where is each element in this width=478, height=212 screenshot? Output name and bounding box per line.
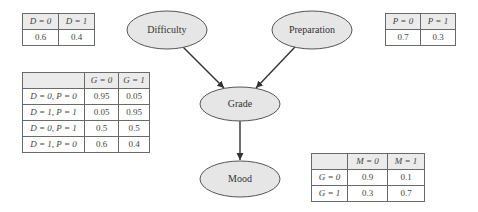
node-grade-label: Grade [228,98,253,109]
value-cell: 0.5 [119,121,150,137]
value-cell: 0.95 [85,89,119,105]
value-cell: 0.9 [348,170,388,186]
header-cell: G = 1 [119,73,150,89]
value-cell: 0.4 [59,30,95,46]
condition-cell: D = 0, P = 1 [23,121,85,137]
header-cell: M = 0 [348,154,388,170]
table-row: D = 0, P = 0 0.95 0.05 [23,89,150,105]
cpt-mood-table: M = 0 M = 1 G = 0 0.9 0.1 G = 1 0.3 0.7 [311,153,425,202]
value-cell: 0.7 [388,186,425,202]
value-cell: 0.95 [119,105,150,121]
condition-cell: D = 0, P = 0 [23,89,85,105]
header-cell: D = 1 [59,14,95,30]
value-cell: 0.4 [119,137,150,153]
condition-cell: G = 0 [312,170,348,186]
node-difficulty-label: Difficulty [147,24,186,35]
value-cell: 0.5 [85,121,119,137]
header-cell: M = 1 [388,154,425,170]
cpt-grade-table: G = 0 G = 1 D = 0, P = 0 0.95 0.05 D = 1… [22,72,150,153]
cpt-preparation-table: P = 0 P = 1 0.7 0.3 [385,13,456,46]
node-difficulty: Difficulty [127,11,207,49]
value-cell: 0.7 [386,30,421,46]
condition-cell: D = 1, P = 1 [23,105,85,121]
node-grade: Grade [200,87,280,121]
header-cell: D = 0 [23,14,59,30]
condition-cell: D = 1, P = 0 [23,137,85,153]
table-row: 0.6 0.4 [23,30,95,46]
header-cell: G = 0 [85,73,119,89]
value-cell: 0.1 [388,170,425,186]
table-row: D = 1, P = 0 0.6 0.4 [23,137,150,153]
table-row: G = 1 0.3 0.7 [312,186,425,202]
header-cell: P = 0 [386,14,421,30]
table-row: D = 1, P = 1 0.05 0.95 [23,105,150,121]
header-cell: P = 1 [421,14,456,30]
header-cell-empty [23,73,85,89]
edge-difficulty-grade [183,47,224,88]
node-preparation-label: Preparation [289,24,335,35]
node-preparation: Preparation [272,11,352,49]
value-cell: 0.05 [85,105,119,121]
table-row: D = 0, P = 1 0.5 0.5 [23,121,150,137]
value-cell: 0.6 [23,30,59,46]
value-cell: 0.05 [119,89,150,105]
table-header-row: M = 0 M = 1 [312,154,425,170]
table-header-row: D = 0 D = 1 [23,14,95,30]
table-header-row: G = 0 G = 1 [23,73,150,89]
edge-preparation-grade [256,47,295,88]
table-header-row: P = 0 P = 1 [386,14,456,30]
condition-cell: G = 1 [312,186,348,202]
table-row: G = 0 0.9 0.1 [312,170,425,186]
header-cell-empty [312,154,348,170]
cpt-difficulty-table: D = 0 D = 1 0.6 0.4 [22,13,95,46]
value-cell: 0.3 [421,30,456,46]
table-row: 0.7 0.3 [386,30,456,46]
node-mood: Mood [200,161,280,197]
value-cell: 0.6 [85,137,119,153]
value-cell: 0.3 [348,186,388,202]
node-mood-label: Mood [228,173,252,184]
